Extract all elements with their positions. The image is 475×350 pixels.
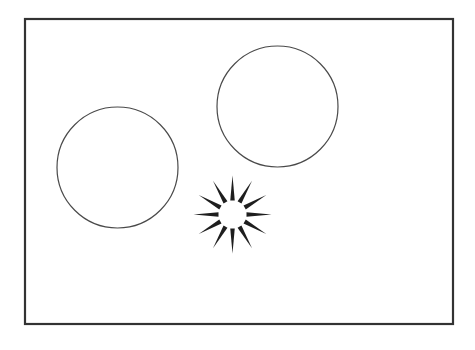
background	[0, 0, 475, 350]
diagram-canvas	[0, 0, 475, 350]
starburst-core	[220, 202, 246, 228]
